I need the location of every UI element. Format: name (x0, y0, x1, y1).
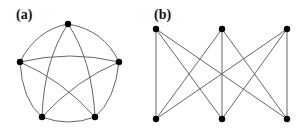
graph-node-right (116, 59, 122, 65)
graph-diagram: (a) (b) (0, 0, 302, 132)
graph-node-t3 (284, 26, 290, 32)
graph-node-t2 (219, 26, 225, 32)
graph-edge (20, 62, 42, 117)
graph-node-t1 (153, 26, 159, 32)
graph-node-bottom-right (92, 114, 98, 120)
graph-node-bottom-left (39, 114, 45, 120)
panel-b-edges (156, 29, 287, 119)
graph-edge (42, 24, 68, 117)
graph-edge (20, 62, 95, 117)
panel-a-nodes (17, 21, 122, 120)
graph-edge (95, 62, 119, 117)
graph-node-top (65, 21, 71, 27)
graph-node-b1 (153, 116, 159, 122)
panel-b: (b) (153, 7, 290, 122)
panel-b-label: (b) (154, 7, 171, 23)
panel-a-label: (a) (16, 7, 33, 23)
panel-a-edges (20, 24, 119, 122)
graph-edge (42, 62, 119, 117)
graph-node-b3 (284, 116, 290, 122)
graph-edge (42, 117, 95, 122)
graph-node-left (17, 59, 23, 65)
panel-a: (a) (16, 7, 122, 122)
graph-node-b2 (219, 116, 225, 122)
graph-edge (20, 56, 119, 62)
